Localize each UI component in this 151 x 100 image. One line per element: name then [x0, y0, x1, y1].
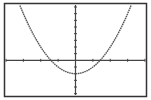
graph-screen: [0, 0, 151, 100]
graph-plot: [0, 0, 151, 100]
